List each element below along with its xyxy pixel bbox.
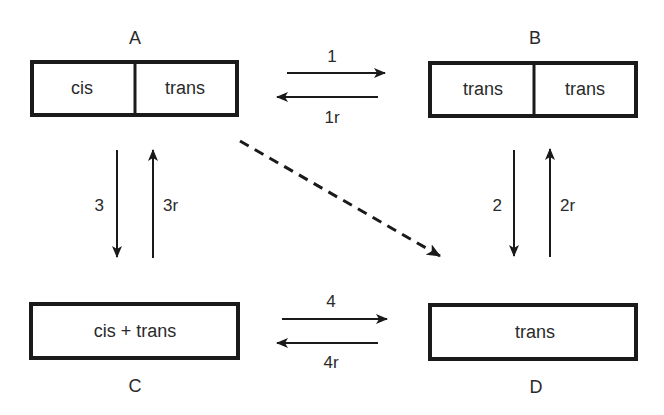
node-a-cell-cis: cis bbox=[71, 78, 93, 98]
node-a-cell-trans: trans bbox=[165, 78, 205, 98]
node-b: B trans trans bbox=[430, 28, 636, 116]
node-c-cell: cis + trans bbox=[94, 321, 177, 341]
node-c-label: C bbox=[129, 376, 142, 396]
edge-4r: 4r bbox=[277, 343, 378, 372]
node-c: cis + trans C bbox=[31, 304, 238, 396]
edge-4: 4 bbox=[282, 292, 387, 319]
edge-1r-label: 1r bbox=[324, 108, 339, 127]
edge-2-label: 2 bbox=[493, 196, 502, 215]
reaction-scheme-diagram: A cis trans B trans trans cis + trans C … bbox=[0, 0, 664, 415]
edge-a-to-d-dashed-arrow bbox=[240, 141, 440, 256]
edge-2r-label: 2r bbox=[560, 196, 575, 215]
edge-1: 1 bbox=[287, 47, 385, 73]
edge-2r: 2r bbox=[550, 149, 575, 257]
edge-2: 2 bbox=[493, 150, 514, 256]
edge-3r-label: 3r bbox=[163, 196, 178, 215]
edge-1-label: 1 bbox=[327, 47, 336, 66]
edge-a-to-d-dashed bbox=[240, 141, 440, 256]
node-a: A cis trans bbox=[32, 28, 237, 115]
edge-3-label: 3 bbox=[95, 196, 104, 215]
edge-3r: 3r bbox=[153, 150, 178, 258]
node-b-label: B bbox=[529, 28, 541, 48]
node-b-cell-trans-2: trans bbox=[565, 79, 605, 99]
node-d-label: D bbox=[530, 377, 543, 397]
node-d-cell: trans bbox=[515, 322, 555, 342]
edge-4-label: 4 bbox=[326, 292, 335, 311]
edge-1r: 1r bbox=[277, 97, 378, 127]
node-b-cell-trans-1: trans bbox=[463, 79, 503, 99]
edge-3: 3 bbox=[95, 150, 117, 257]
node-a-label: A bbox=[129, 28, 141, 48]
edge-4r-label: 4r bbox=[323, 353, 338, 372]
node-d: trans D bbox=[430, 305, 636, 397]
